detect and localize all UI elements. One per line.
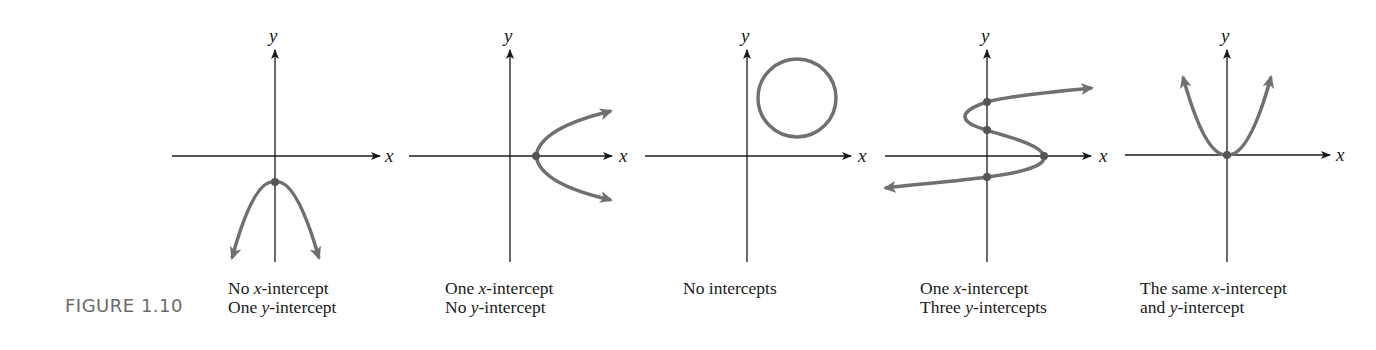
caption-line-1: One x-intercept [920, 279, 1047, 298]
origin-intercept-point [1223, 151, 1231, 159]
graph-panel-3: x y [645, 25, 867, 262]
caption-line-1: No intercepts [683, 279, 777, 298]
y-axis-label: y [267, 25, 278, 46]
graph-panel-5: x y [1125, 25, 1345, 262]
x-axis-label: x [618, 145, 628, 166]
y-axis-label: y [502, 25, 513, 46]
y-axis-label: y [979, 25, 990, 46]
caption-panel-4: One x-intercept Three y-intercepts [920, 279, 1047, 317]
y-intercept-point [983, 98, 991, 106]
caption-line-1: The same x-intercept [1140, 279, 1287, 298]
x-axis-label: x [1335, 144, 1345, 165]
caption-line-1: No x-intercept [228, 279, 336, 298]
caption-line-2: No y-intercept [445, 298, 553, 317]
x-intercept-point [1040, 152, 1048, 160]
caption-line-2: and y-intercept [1140, 298, 1287, 317]
x-intercept-point [532, 152, 540, 160]
y-intercept-point [983, 173, 991, 181]
x-axis-label: x [384, 145, 394, 166]
caption-panel-1: No x-intercept One y-intercept [228, 279, 336, 317]
y-intercept-point [983, 126, 991, 134]
y-axis-label: y [1219, 25, 1230, 46]
graph-panel-1: x y [172, 25, 394, 262]
caption-line-1: One x-intercept [445, 279, 553, 298]
curve-circle [758, 59, 836, 137]
caption-panel-2: One x-intercept No y-intercept [445, 279, 553, 317]
y-intercept-point [271, 178, 279, 186]
x-axis-label: x [857, 145, 867, 166]
caption-line-2: Three y-intercepts [920, 298, 1047, 317]
caption-line-2: One y-intercept [228, 298, 336, 317]
y-axis-label: y [739, 25, 750, 46]
x-axis-label: x [1098, 145, 1108, 166]
figure-label: FIGURE 1.10 [65, 295, 183, 316]
caption-panel-3: No intercepts [683, 279, 777, 298]
caption-panel-5: The same x-intercept and y-intercept [1140, 279, 1287, 317]
graph-panel-2: x y [409, 25, 628, 262]
graph-panel-4: x y [885, 25, 1108, 262]
